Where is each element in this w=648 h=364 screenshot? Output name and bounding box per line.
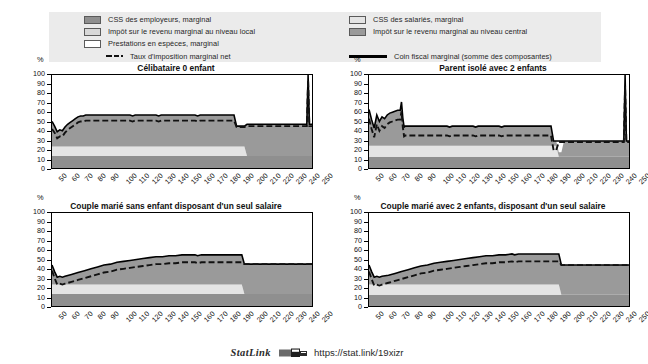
x-axis-tick-label: 60 <box>70 310 81 321</box>
plot-area <box>368 212 630 307</box>
y-axis-tick-label: 30 <box>9 137 45 144</box>
dark-gray-swatch-icon <box>84 16 101 24</box>
x-axis-tick-label: 220 <box>598 172 612 186</box>
chart-svg-1 <box>369 75 629 168</box>
x-axis-tick-label: 70 <box>401 310 412 321</box>
x-axis-tick-label: 50 <box>374 172 385 183</box>
y-axis: 1009080706050403020100 <box>325 74 368 169</box>
statlink-badge-icon[interactable] <box>279 348 307 358</box>
lighter-gray-swatch-icon <box>349 16 366 24</box>
legend-column-right: CSS des salariés, marginal Impôt sur le … <box>349 14 552 63</box>
chart-svg-2 <box>52 213 312 306</box>
plot-area <box>51 74 313 169</box>
plot-area <box>368 74 630 169</box>
y-axis-tick-label: 50 <box>9 256 45 263</box>
x-axis-tick-label: 210 <box>268 310 282 324</box>
y-axis-tick-label: 60 <box>9 108 45 115</box>
x-axis-tick-label: 200 <box>255 310 269 324</box>
x-axis-tick-label: 120 <box>467 310 481 324</box>
plot-frame <box>368 74 630 169</box>
x-axis-tick-label: 210 <box>268 172 282 186</box>
x-axis: 5060708090100110120130140150160170180190… <box>368 169 630 195</box>
y-axis-tick-label: 50 <box>9 118 45 125</box>
y-axis-tick-label: 40 <box>326 127 362 134</box>
x-axis-tick-label: 110 <box>137 172 150 185</box>
y-axis-tick-label: 90 <box>326 218 362 225</box>
y-axis-tick-label: 0 <box>326 165 362 172</box>
x-axis-tick-label: 190 <box>242 172 256 186</box>
area-series-0 <box>52 156 312 168</box>
y-axis: 1009080706050403020100 <box>8 74 51 169</box>
x-axis-tick-label: 190 <box>559 310 573 324</box>
y-axis-tick-label: 30 <box>326 137 362 144</box>
y-axis-tick-label: 20 <box>9 146 45 153</box>
x-axis-tick-label: 200 <box>572 172 586 186</box>
plot-area <box>51 212 313 307</box>
area-series-0 <box>369 295 629 306</box>
y-axis-tick-label: 50 <box>326 118 362 125</box>
legend-item-label: Prestations en espèces, marginal <box>108 39 219 48</box>
x-axis-tick-label: 220 <box>281 310 295 324</box>
x-axis-tick-label: 50 <box>374 310 385 321</box>
x-axis: 5060708090100110120130140150160170180190… <box>51 307 313 333</box>
x-axis-tick-label: 80 <box>414 172 425 183</box>
chart-grid: % Célibataire 0 enfant 10090807060504030… <box>0 62 648 340</box>
x-axis-tick-label: 190 <box>242 310 256 324</box>
legend-item-marginal-tax-wedge: Coin fiscal marginal (somme des composan… <box>349 51 552 63</box>
y-axis-tick-label: 90 <box>9 218 45 225</box>
x-axis-tick-label: 70 <box>84 172 95 183</box>
y-axis-tick-label: 60 <box>326 246 362 253</box>
x-axis: 5060708090100110120130140150160170180190… <box>51 169 313 195</box>
statlink-url[interactable]: https://stat.link/19xizr <box>314 347 404 358</box>
x-axis-tick-label: 120 <box>150 172 164 186</box>
x-axis-tick-label: 220 <box>281 172 295 186</box>
plot-frame <box>368 212 630 307</box>
legend-item-label: Coin fiscal marginal (somme des composan… <box>394 52 552 61</box>
x-axis-tick-label: 220 <box>598 310 612 324</box>
x-axis-tick-label: 250 <box>638 172 648 186</box>
page-title: Couple marié sans enfant disposant d'un … <box>30 201 322 211</box>
plot-frame <box>51 74 313 169</box>
x-axis: 5060708090100110120130140150160170180190… <box>368 307 630 333</box>
x-axis-tick-label: 110 <box>454 310 467 323</box>
x-axis-tick-label: 70 <box>84 310 95 321</box>
x-axis-tick-label: 80 <box>414 310 425 321</box>
x-axis-tick-label: 90 <box>427 310 438 321</box>
y-axis-tick-label: 0 <box>9 303 45 310</box>
x-axis-tick-label: 60 <box>70 172 81 183</box>
y-axis: 1009080706050403020100 <box>8 212 51 307</box>
y-axis-tick-label: 40 <box>9 127 45 134</box>
chart-svg-0 <box>52 75 312 168</box>
plot-frame <box>51 212 313 307</box>
x-axis-tick-label: 200 <box>255 172 269 186</box>
legend-item-cash-benefits: Prestations en espèces, marginal <box>84 38 255 50</box>
legend-item-label: CSS des employeurs, marginal <box>108 15 211 24</box>
y-axis-tick-label: 40 <box>9 265 45 272</box>
x-axis-tick-label: 250 <box>321 310 335 324</box>
light-gray-swatch-icon <box>84 28 101 36</box>
page-title: Célibataire 0 enfant <box>30 63 322 73</box>
y-axis-tick-label: 60 <box>9 246 45 253</box>
y-axis-tick-label: 20 <box>326 146 362 153</box>
y-axis-tick-label: 100 <box>326 70 362 77</box>
y-axis-tick-label: 80 <box>9 227 45 234</box>
mid-gray-swatch-icon <box>349 28 366 36</box>
y-axis-tick-label: 80 <box>9 89 45 96</box>
dashed-line-icon <box>106 52 123 60</box>
legend-item-employer-ssc: CSS des employeurs, marginal <box>84 14 255 26</box>
y-axis-tick-label: 20 <box>9 284 45 291</box>
y-axis-tick-label: 0 <box>9 165 45 172</box>
y-axis-tick-label: 100 <box>326 208 362 215</box>
x-axis-tick-label: 90 <box>427 172 438 183</box>
y-axis-tick-label: 0 <box>326 303 362 310</box>
legend-item-income-tax-local: Impôt sur le revenu marginal au niveau l… <box>84 26 255 38</box>
x-axis-tick-label: 90 <box>110 310 121 321</box>
y-axis-tick-label: 20 <box>326 284 362 291</box>
legend-item-income-tax-central: Impôt sur le revenu marginal au niveau c… <box>349 26 552 38</box>
x-axis-tick-label: 50 <box>57 310 68 321</box>
y-axis-tick-label: 10 <box>326 156 362 163</box>
y-axis-tick-label: 100 <box>9 208 45 215</box>
x-axis-tick-label: 250 <box>638 310 648 324</box>
legend-column-left: CSS des employeurs, marginal Impôt sur l… <box>84 14 255 62</box>
legend-item-label: Impôt sur le revenu marginal au niveau c… <box>373 27 527 36</box>
